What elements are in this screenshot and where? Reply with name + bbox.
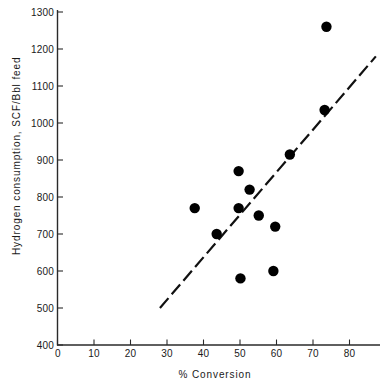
- data-point: [319, 105, 329, 115]
- x-tick-label-40: 40: [198, 348, 210, 359]
- data-point: [244, 184, 254, 194]
- y-tick-label-400: 400: [37, 340, 55, 351]
- data-point: [235, 273, 245, 283]
- y-tick-label-1300: 1300: [31, 7, 54, 18]
- data-point: [270, 221, 280, 231]
- data-point: [254, 210, 264, 220]
- chart-svg: 400 500 600 700 800 900 1000 1100 1200 1…: [0, 0, 386, 388]
- y-tick-label-1100: 1100: [32, 81, 55, 92]
- x-tick-label-60: 60: [271, 348, 283, 359]
- y-tick-label-700: 700: [37, 229, 55, 240]
- data-point: [211, 229, 221, 239]
- y-tick-label-600: 600: [37, 266, 55, 277]
- y-tick-label-1000: 1000: [31, 118, 54, 129]
- data-point: [233, 166, 243, 176]
- x-tick-label-10: 10: [88, 348, 100, 359]
- data-point: [233, 203, 243, 213]
- y-tick-label-1200: 1200: [31, 44, 54, 55]
- y-tick-label-900: 900: [37, 155, 55, 166]
- data-point: [321, 22, 331, 32]
- data-point: [190, 203, 200, 213]
- y-axis-title: Hydrogen consumption, SCF/Bbl feed: [11, 57, 22, 255]
- y-tick-label-500: 500: [37, 303, 55, 314]
- data-point: [285, 149, 295, 159]
- x-tick-label-30: 30: [161, 348, 173, 359]
- x-tick-label-70: 70: [307, 348, 319, 359]
- x-tick-label-0: 0: [55, 348, 61, 359]
- scatter-chart: 400 500 600 700 800 900 1000 1100 1200 1…: [0, 0, 386, 388]
- y-tick-label-800: 800: [37, 192, 55, 203]
- x-tick-label-50: 50: [234, 348, 246, 359]
- x-tick-label-20: 20: [125, 348, 137, 359]
- x-tick-label-80: 80: [344, 348, 356, 359]
- x-axis-title: % Conversion: [178, 369, 251, 380]
- data-point: [268, 266, 278, 276]
